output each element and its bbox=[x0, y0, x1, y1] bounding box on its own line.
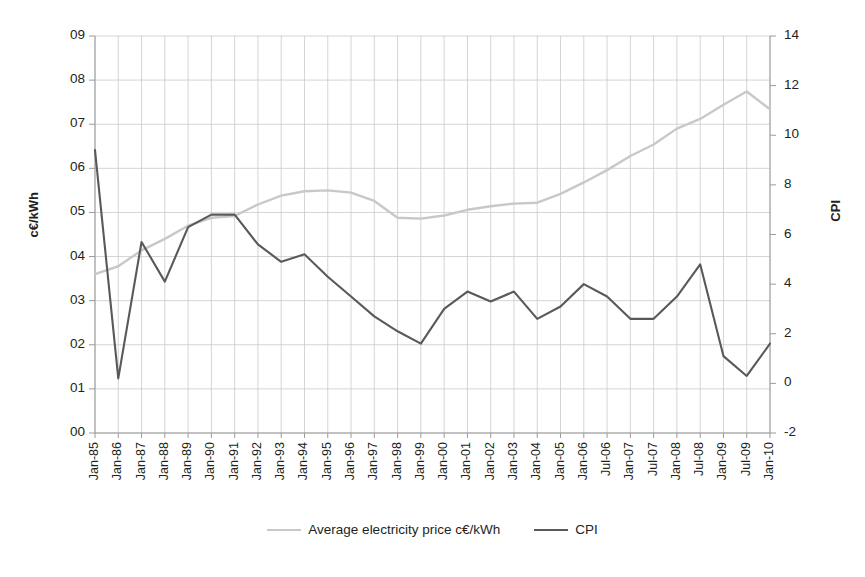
x-axis-tick: Jan-88 bbox=[157, 442, 171, 480]
x-axis-tick: Jan-03 bbox=[506, 442, 520, 480]
x-axis-tick: Jan-94 bbox=[296, 442, 310, 480]
chart-legend: Average electricity price c€/kWhCPI bbox=[0, 522, 865, 537]
x-axis-tick: Jan-06 bbox=[576, 442, 590, 480]
legend-item[interactable]: Average electricity price c€/kWh bbox=[267, 522, 500, 537]
y-axis-left-tick: 01 bbox=[45, 380, 85, 395]
x-axis-tick: Jan-01 bbox=[459, 442, 473, 480]
y-axis-right-tick: 6 bbox=[784, 226, 824, 241]
x-axis-tick: Jan-95 bbox=[320, 442, 334, 480]
legend-color-swatch bbox=[267, 529, 301, 531]
y-axis-right-tick: 0 bbox=[784, 374, 824, 389]
x-axis-tick: Jan-98 bbox=[390, 442, 404, 480]
legend-label: CPI bbox=[575, 522, 598, 537]
x-axis-tick: Jan-10 bbox=[762, 442, 776, 480]
y-axis-right-tick: 8 bbox=[784, 176, 824, 191]
x-axis-tick: Jan-86 bbox=[110, 442, 124, 480]
x-axis-tick: Jul-06 bbox=[599, 442, 613, 476]
legend-label: Average electricity price c€/kWh bbox=[308, 522, 500, 537]
y-axis-left-tick: 00 bbox=[45, 424, 85, 439]
y-axis-right-tick: 2 bbox=[784, 325, 824, 340]
y-axis-left-tick: 02 bbox=[45, 336, 85, 351]
y-axis-left-tick: 06 bbox=[45, 159, 85, 174]
x-axis-tick: Jul-07 bbox=[646, 442, 660, 476]
chart-container: c€/kWh CPI 00010203040506070809-20246810… bbox=[0, 0, 865, 577]
y-axis-left-tick: 08 bbox=[45, 71, 85, 86]
y-axis-left-tick: 09 bbox=[45, 27, 85, 42]
x-axis-tick: Jan-97 bbox=[366, 442, 380, 480]
legend-color-swatch bbox=[534, 529, 568, 531]
y-axis-right-tick: 10 bbox=[784, 126, 824, 141]
x-axis-tick: Jan-09 bbox=[715, 442, 729, 480]
x-axis-tick: Jan-91 bbox=[227, 442, 241, 480]
x-axis-tick: Jul-09 bbox=[739, 442, 753, 476]
y-axis-left-tick: 07 bbox=[45, 115, 85, 130]
series-line-1 bbox=[95, 92, 770, 275]
y-axis-left-tick: 03 bbox=[45, 292, 85, 307]
chart-svg bbox=[0, 0, 865, 577]
y-axis-right-tick: 4 bbox=[784, 275, 824, 290]
y-axis-right-tick: 12 bbox=[784, 77, 824, 92]
x-axis-tick: Jan-05 bbox=[553, 442, 567, 480]
y-axis-right-tick: -2 bbox=[784, 424, 824, 439]
gridlines bbox=[95, 36, 770, 433]
x-axis-tick: Jan-96 bbox=[343, 442, 357, 480]
x-axis-tick: Jan-04 bbox=[529, 442, 543, 480]
x-axis-tick: Jul-08 bbox=[692, 442, 706, 476]
y-axis-left-tick: 05 bbox=[45, 203, 85, 218]
x-axis-tick: Jan-87 bbox=[134, 442, 148, 480]
x-axis-tick: Jan-93 bbox=[273, 442, 287, 480]
x-axis-tick: Jan-89 bbox=[180, 442, 194, 480]
x-axis-tick: Jan-08 bbox=[669, 442, 683, 480]
x-axis-tick: Jan-90 bbox=[203, 442, 217, 480]
x-axis-tick: Jan-00 bbox=[436, 442, 450, 480]
series-line-2 bbox=[95, 150, 770, 378]
y-axis-right-tick: 14 bbox=[784, 27, 824, 42]
legend-item[interactable]: CPI bbox=[534, 522, 598, 537]
x-axis-tick: Jan-99 bbox=[413, 442, 427, 480]
x-axis-tick: Jan-92 bbox=[250, 442, 264, 480]
x-axis-tick: Jan-85 bbox=[87, 442, 101, 480]
y-axis-left-tick: 04 bbox=[45, 248, 85, 263]
axis-lines bbox=[89, 36, 776, 438]
x-axis-tick: Jan-07 bbox=[622, 442, 636, 480]
x-axis-tick: Jan-02 bbox=[483, 442, 497, 480]
